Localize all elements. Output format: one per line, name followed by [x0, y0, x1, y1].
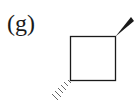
cyclobutane-structure [0, 0, 137, 108]
cyclobutane-ring [71, 37, 116, 81]
wedge-bond [116, 17, 135, 37]
hashed-bond [52, 80, 71, 100]
